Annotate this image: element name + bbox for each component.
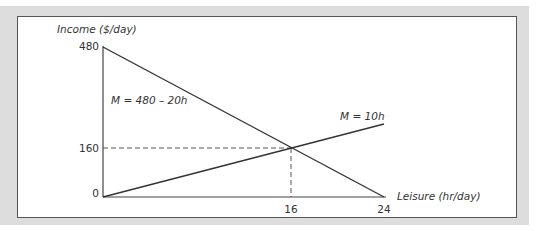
tick-y-0: 0	[92, 187, 99, 199]
x-axis-label: Leisure (hr/day)	[397, 190, 480, 202]
y-axis-label: Income ($/day)	[57, 23, 137, 35]
line-income-label: M = 10h	[340, 110, 385, 122]
chart: Income ($/day) 480 160 0 16 24 Leisure (…	[0, 0, 539, 231]
line-budget	[103, 47, 384, 197]
tick-x-24: 24	[377, 203, 391, 215]
line-income	[103, 124, 384, 197]
line-budget-label: M = 480 – 20h	[111, 94, 188, 106]
tick-x-16: 16	[284, 203, 298, 215]
tick-y-480: 480	[79, 40, 99, 52]
tick-y-160: 160	[79, 142, 99, 154]
